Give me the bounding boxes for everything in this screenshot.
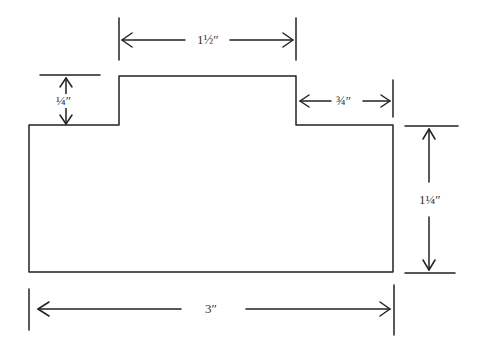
tab-offset-label: ¾″ <box>336 94 351 108</box>
base-height-label: 1¼″ <box>419 193 441 207</box>
part-drawing <box>0 0 479 352</box>
base-width-label: 3″ <box>205 302 217 316</box>
tab-width-label: 1½″ <box>197 33 219 47</box>
tab-height-label: ¼″ <box>56 94 71 108</box>
